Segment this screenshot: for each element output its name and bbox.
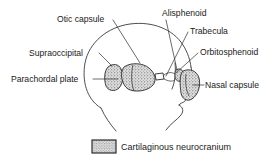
otic-capsule-mass xyxy=(121,64,155,91)
legend-label: Cartilaginous neurocranium xyxy=(121,142,231,152)
leader-supraoccipital xyxy=(99,53,112,66)
occipital-neck-outline xyxy=(101,108,116,131)
legend: Cartilaginous neurocranium xyxy=(92,140,231,153)
supraoccipital-mass xyxy=(105,65,123,91)
legend-stipple-swatch xyxy=(92,140,116,153)
basal-plate-connector xyxy=(155,73,164,80)
label-alisphenoid: Alisphenoid xyxy=(162,8,207,18)
trabecula-strand xyxy=(164,73,175,75)
label-trabecula: Trabecula xyxy=(190,26,228,36)
anatomical-figure: Otic capsule Alisphenoid Trabecula Supra… xyxy=(0,0,280,165)
label-parachordal-plate: Parachordal plate xyxy=(11,74,79,84)
leader-otic-capsule xyxy=(113,20,140,63)
label-nasal-capsule: Nasal capsule xyxy=(205,80,259,90)
cartilaginous-neurocranium-group xyxy=(105,64,200,100)
label-supraoccipital: Supraoccipital xyxy=(29,48,83,58)
label-otic-capsule: Otic capsule xyxy=(57,14,105,24)
label-orbitosphenoid: Orbitosphenoid xyxy=(200,47,259,57)
trabecula-strand-lower xyxy=(164,79,175,81)
leader-alisphenoid xyxy=(166,20,177,70)
chin-jaw-outline xyxy=(166,105,183,130)
figure-canvas: Otic capsule Alisphenoid Trabecula Supra… xyxy=(0,0,280,165)
